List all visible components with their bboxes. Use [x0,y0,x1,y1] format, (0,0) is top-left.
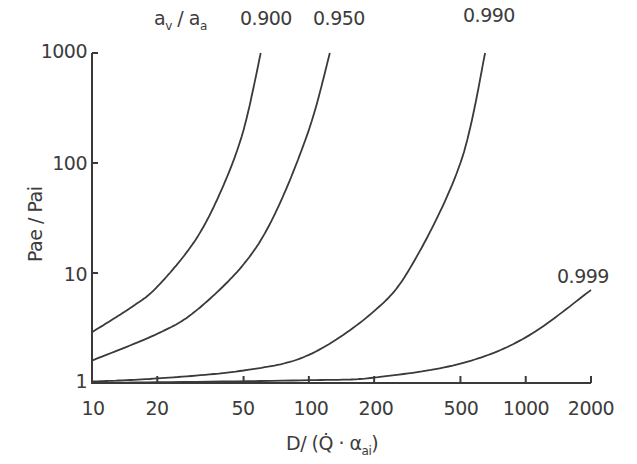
curve-label-0990: 0.990 [463,4,515,26]
x-tick-200: 200 [359,397,394,419]
curve-0990 [92,53,485,382]
curve-0900 [92,53,261,332]
y-tick-1000: 1000 [27,40,87,62]
x-axis-label-sub: ai [362,444,372,458]
x-tick-100: 100 [294,397,329,419]
x-tick-500: 500 [444,397,479,419]
x-axis-label-close: ) [371,432,378,454]
x-axis-label: D/ (Q̇ · αai) [286,432,378,454]
x-tick-50: 50 [231,397,254,419]
x-axis-label-main: D/ (Q̇ · α [286,432,362,454]
x-tick-2000: 2000 [568,397,614,419]
curves [92,53,591,383]
legend-title: av / aa [154,7,207,29]
axes [91,53,591,384]
y-tick-1: 1 [27,370,87,392]
curve-label-0900: 0.900 [240,7,292,29]
curve-label-0999: 0.999 [557,265,609,287]
legend-title-sub-a: a [200,19,207,33]
y-axis-label: Pae / Pai [24,187,46,262]
legend-title-a: a [154,7,165,29]
x-tick-10: 10 [81,397,104,419]
curve-0950 [92,53,330,361]
y-tick-100: 100 [27,152,87,174]
legend-title-a2: / a [172,7,200,29]
legend-title-sub-v: v [165,19,172,33]
y-tick-10: 10 [27,263,87,285]
x-tick-1000: 1000 [503,397,549,419]
x-tick-20: 20 [145,397,168,419]
chart-plot-area [0,0,637,464]
curve-label-0950: 0.950 [313,7,365,29]
